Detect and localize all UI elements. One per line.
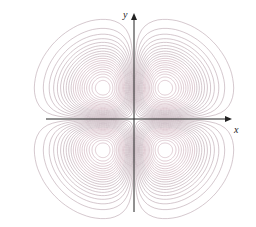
y-axis-label: y: [123, 9, 127, 20]
contour-plot: [0, 0, 256, 227]
contour-line: [151, 136, 181, 166]
contour-line: [89, 138, 115, 164]
contour-line: [139, 124, 208, 193]
x-axis-arrow-icon: [225, 116, 232, 122]
contour-line: [89, 74, 115, 100]
contour-line: [95, 80, 110, 95]
contour-line: [151, 72, 181, 102]
contour-line: [61, 46, 130, 115]
contour-line: [87, 136, 117, 166]
contour-line: [153, 74, 179, 100]
x-axis-label: x: [234, 124, 238, 135]
contour-line: [158, 143, 173, 158]
contour-line: [158, 80, 173, 95]
contour-line: [95, 143, 110, 158]
contour-line: [139, 46, 208, 115]
contour-line: [87, 72, 117, 102]
y-axis-arrow-icon: [131, 13, 137, 20]
contour-line: [61, 124, 130, 193]
contour-line: [153, 138, 179, 164]
